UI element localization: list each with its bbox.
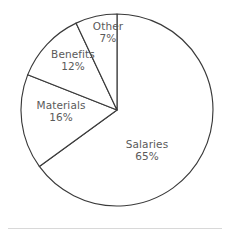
bottom-divider <box>8 228 222 229</box>
pie-label-materials-value: 16% <box>26 112 96 124</box>
pie-label-materials: Materials 16% <box>26 100 96 124</box>
pie-chart: Other 7% Benefits 12% Materials 16% Sala… <box>0 0 229 235</box>
pie-label-salaries: Salaries 65% <box>114 139 180 163</box>
pie-label-other-value: 7% <box>86 33 130 45</box>
pie-label-salaries-value: 65% <box>114 151 180 163</box>
pie-label-benefits: Benefits 12% <box>42 49 104 73</box>
pie-label-other: Other 7% <box>86 21 130 45</box>
pie-label-benefits-value: 12% <box>42 61 104 73</box>
